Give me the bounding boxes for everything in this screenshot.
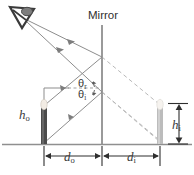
image-candle-flame (157, 99, 163, 109)
diagram-canvas (0, 0, 194, 175)
reflected-ray-upper (27, 20, 102, 57)
arrowhead-hi-up (176, 104, 183, 110)
light-ray-group (27, 20, 102, 143)
image-height-subscript: i (179, 123, 181, 133)
arrowhead-hi-down (176, 138, 183, 144)
object-candle-body-highlight (42, 108, 44, 144)
theta-incidence-subscript: i (84, 94, 86, 102)
virtual-ray-upper (102, 57, 159, 104)
object-height-subscript: o (26, 113, 30, 123)
ray-arrowhead-group (56, 39, 75, 120)
object-distance-label: do (64, 150, 75, 165)
image-height-label: hi (172, 118, 181, 133)
object-candle-icon (41, 99, 47, 144)
image-candle-body-highlight (158, 108, 160, 144)
arrowhead-do-left (45, 153, 51, 159)
arrowhead-theta-r (92, 81, 96, 84)
object-candle-flame (41, 99, 47, 109)
object-candle-body (41, 108, 47, 144)
virtual-ray-group (102, 57, 159, 141)
arrowhead-reflected-upper (67, 39, 75, 45)
image-distance-label: di (127, 150, 136, 165)
arrowhead-do-right (95, 153, 101, 159)
angle-incidence-label: θi (78, 89, 86, 102)
mirror-label: Mirror (88, 10, 118, 22)
eye-pupil (22, 7, 33, 15)
distance-dimension-group (44, 146, 160, 166)
arrowhead-reflected-lower (56, 47, 64, 53)
arrowhead-di-left (103, 153, 109, 159)
reflected-ray-lower (27, 22, 102, 92)
virtual-ray-extension (102, 92, 158, 139)
image-candle-icon (157, 99, 163, 144)
object-height-label: ho (19, 108, 30, 123)
object-distance-subscript: o (71, 155, 75, 165)
incident-ray-upper (46, 57, 102, 104)
image-candle-body (157, 108, 163, 144)
arrowhead-di-right (153, 153, 159, 159)
mirror-reflection-diagram: Mirror ho hi do di θr θi (0, 0, 194, 175)
image-distance-subscript: i (134, 155, 136, 165)
